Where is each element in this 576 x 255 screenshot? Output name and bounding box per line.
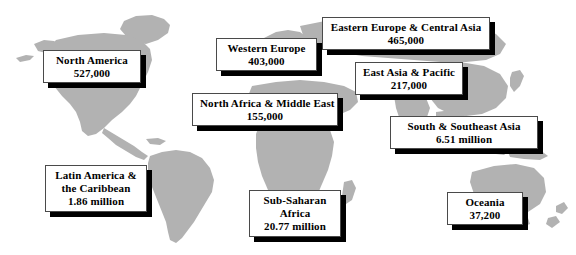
callout-sub-saharan-africa-region-line2: Africa xyxy=(257,207,333,220)
central-america-shape xyxy=(102,128,148,160)
callout-eastern-europe-central-asia-region: Eastern Europe & Central Asia xyxy=(330,21,482,34)
new-zealand-south-shape xyxy=(546,216,560,228)
callout-eastern-europe-central-asia: Eastern Europe & Central Asia 465,000 xyxy=(322,17,490,50)
callout-sub-saharan-africa-region-line1: Sub-Saharan xyxy=(257,194,333,207)
callout-eastern-europe-central-asia-value: 465,000 xyxy=(330,34,482,47)
north-america-shape xyxy=(44,33,152,136)
caribbean-shape xyxy=(146,138,166,145)
callout-oceania: Oceania 37,200 xyxy=(447,192,523,225)
japan-shape xyxy=(510,70,524,92)
callout-north-america-region: North America xyxy=(51,54,133,67)
callout-western-europe-value: 403,000 xyxy=(224,55,309,68)
callout-north-africa-middle-east-region: North Africa & Middle East xyxy=(200,97,330,110)
madagascar-shape xyxy=(342,180,356,204)
callout-latin-america-caribbean-value: 1.86 million xyxy=(53,195,139,208)
callout-north-america: North America 527,000 xyxy=(43,50,141,83)
callout-north-america-value: 527,000 xyxy=(51,67,133,80)
callout-south-southeast-asia-value: 6.51 million xyxy=(398,133,530,146)
callout-south-southeast-asia: South & Southeast Asia 6.51 million xyxy=(390,116,538,149)
callout-latin-america-caribbean-region-line1: Latin America & xyxy=(53,169,139,182)
callout-latin-america-caribbean-region-line2: the Caribbean xyxy=(53,182,139,195)
callout-sub-saharan-africa: Sub-Saharan Africa 20.77 million xyxy=(249,190,341,237)
callout-oceania-value: 37,200 xyxy=(455,209,515,222)
callout-north-africa-middle-east-value: 155,000 xyxy=(200,110,330,123)
new-zealand-shape xyxy=(556,202,568,214)
world-map-figure: North America 527,000 Western Europe 403… xyxy=(0,0,576,255)
callout-latin-america-caribbean: Latin America & the Caribbean 1.86 milli… xyxy=(45,165,147,212)
new-guinea-shape xyxy=(508,148,548,160)
callout-oceania-region: Oceania xyxy=(455,196,515,209)
callout-western-europe: Western Europe 403,000 xyxy=(216,38,317,71)
callout-sub-saharan-africa-value: 20.77 million xyxy=(257,220,333,233)
south-america-shape xyxy=(148,150,214,243)
callout-east-asia-pacific-region: East Asia & Pacific xyxy=(363,66,455,79)
aleutians-shape xyxy=(16,55,34,62)
callout-east-asia-pacific-value: 217,000 xyxy=(363,79,455,92)
callout-east-asia-pacific: East Asia & Pacific 217,000 xyxy=(355,62,463,95)
callout-western-europe-region: Western Europe xyxy=(224,42,309,55)
callout-south-southeast-asia-region: South & Southeast Asia xyxy=(398,120,530,133)
callout-north-africa-middle-east: North Africa & Middle East 155,000 xyxy=(192,93,338,126)
